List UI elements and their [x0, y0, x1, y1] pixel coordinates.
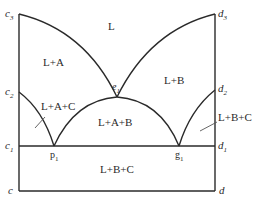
region-label-l-b: L+B [164, 74, 184, 86]
label-p1: p1 [50, 149, 59, 163]
label-d3: d3 [218, 7, 228, 22]
label-c2: c2 [5, 85, 14, 100]
label-c1: c1 [5, 139, 13, 154]
curve-d2-g1 [179, 90, 215, 146]
label-e1: e1 [112, 81, 120, 95]
region-label-l-a-b: L+A+B [98, 116, 132, 128]
phase-diagram: c3 c2 c1 c d3 d2 d1 d e1 p1 g1 L L+A L+B… [0, 0, 253, 197]
region-label-l-a-c: L+A+C [41, 100, 75, 112]
label-g1: g1 [175, 149, 184, 163]
label-c3: c3 [5, 7, 14, 22]
label-d2: d2 [218, 82, 228, 97]
region-label-l: L [108, 20, 115, 32]
leader-line-lac [35, 117, 45, 128]
label-c: c [8, 184, 13, 196]
liquidus-curve-c3-e1 [19, 14, 117, 97]
region-label-l-b-c-right: L+B+C [218, 111, 252, 123]
region-label-l-a: L+A [43, 56, 64, 68]
label-d1: d1 [218, 139, 227, 154]
label-d: d [219, 184, 225, 196]
region-label-l-b-c-bottom: L+B+C [100, 163, 134, 175]
